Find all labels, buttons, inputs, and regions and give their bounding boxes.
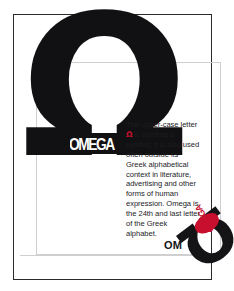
body-copy-lead: The upper-case letter bbox=[126, 120, 197, 129]
page-frame: Ω OMEGA The upper-case letter Ω is used … bbox=[13, 14, 212, 280]
omega-chip-label: OMEGA bbox=[70, 135, 114, 153]
corner-omega-mark: OM Ω OMEGA bbox=[162, 213, 226, 279]
omega-wordmark-chip: OMEGA bbox=[70, 133, 118, 154]
poster-canvas: Ω OMEGA The upper-case letter Ω is used … bbox=[0, 0, 226, 291]
